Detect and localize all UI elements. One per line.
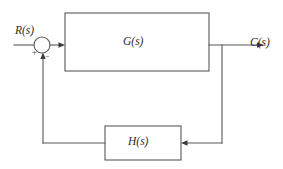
block-diagram-canvas: R(s) G(s) C(s) H(s) + − [0, 0, 283, 169]
h-block-label: H(s) [128, 136, 148, 148]
summing-junction-minus-sign: − [45, 53, 50, 61]
output-signal-label: C(s) [250, 37, 270, 49]
arrowhead-into-h-block [181, 140, 188, 145]
arrowhead-into-g-block [59, 42, 66, 47]
input-signal-label: R(s) [15, 25, 34, 37]
g-block-label: G(s) [123, 36, 143, 48]
summing-junction-plus-sign: + [32, 48, 37, 57]
